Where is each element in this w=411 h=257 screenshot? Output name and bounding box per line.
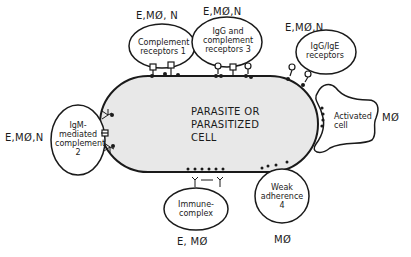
label-line: IgG and [203, 27, 253, 36]
label-line: 4 [257, 201, 307, 210]
label-line: complex [174, 209, 218, 218]
label-line: Weak [257, 183, 307, 192]
parasite-label-line: CELL [191, 131, 260, 144]
label-line: Immune- [174, 200, 218, 209]
label-line: adherence [257, 192, 307, 201]
effector-cells-igg-ige: E,MØ,N [285, 22, 323, 33]
igg-complement-label: IgG and complement receptors 3 [203, 27, 253, 54]
label-line: Complement [138, 38, 188, 47]
igg-ige-label: IgG/IgE receptors [303, 42, 347, 60]
label-line: IgM- [55, 121, 101, 130]
effector-cells-3: E,MØ,N [203, 6, 241, 17]
parasite-label: PARASITE OR PARASITIZED CELL [191, 105, 260, 144]
label-line: complement [203, 36, 253, 45]
parasite-label-line: PARASITE OR [191, 105, 260, 118]
weak-adherence-label: Weak adherence 4 [257, 183, 307, 210]
parasite-label-line: PARASITIZED [191, 118, 260, 131]
label-line: Activated [334, 112, 372, 121]
effector-cells-2: E,MØ,N [5, 132, 43, 143]
label-line: receptors 1 [138, 47, 188, 56]
label-line: mediated [55, 130, 101, 139]
igm-receptor-icon [101, 130, 108, 136]
label-line: IgG/IgE [303, 42, 347, 51]
igm-complement-label: IgM- mediated complement 2 [55, 121, 101, 157]
effector-cells-activated: MØ [382, 112, 399, 123]
label-line: receptors [303, 51, 347, 60]
effector-cells-4: MØ [274, 234, 291, 245]
label-line: 2 [55, 148, 101, 157]
complement-receptors-label: Complement receptors 1 [138, 38, 188, 56]
immune-complex-label: Immune- complex [174, 200, 218, 218]
label-line: complement [55, 139, 101, 148]
label-line: receptors 3 [203, 45, 253, 54]
effector-cells-immune-complex: E, MØ [177, 236, 208, 247]
immune-complex-icon [192, 177, 223, 187]
activated-cell-label: Activated cell [334, 112, 372, 130]
effector-cells-1: E,MØ, N [136, 10, 178, 21]
label-line: cell [334, 121, 372, 130]
